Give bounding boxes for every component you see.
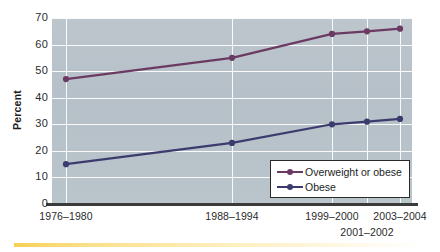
data-point-marker [229,55,235,61]
data-point-marker [63,161,69,167]
legend-item-label: Obese [303,181,336,193]
data-point-marker [364,119,370,125]
chart-legend: Overweight or obeseObese [270,160,410,198]
accent-band [14,243,426,247]
legend-item: Obese [277,179,409,194]
series-overweight-or-obese [63,26,403,83]
series-line [66,29,400,79]
data-point-marker [329,121,335,127]
legend-marker-icon [277,166,303,177]
legend-item-label: Overweight or obese [303,166,402,178]
legend-marker-icon [277,181,303,192]
chart-figure: 706050403020100 Percent 1976–19801988–19… [0,0,440,252]
legend-item: Overweight or obese [277,164,409,179]
data-point-marker [364,28,370,34]
data-point-marker [229,140,235,146]
data-point-marker [329,31,335,37]
series-data-layer [0,0,440,252]
data-point-marker [397,26,403,32]
data-point-marker [397,116,403,122]
data-point-marker [63,76,69,82]
